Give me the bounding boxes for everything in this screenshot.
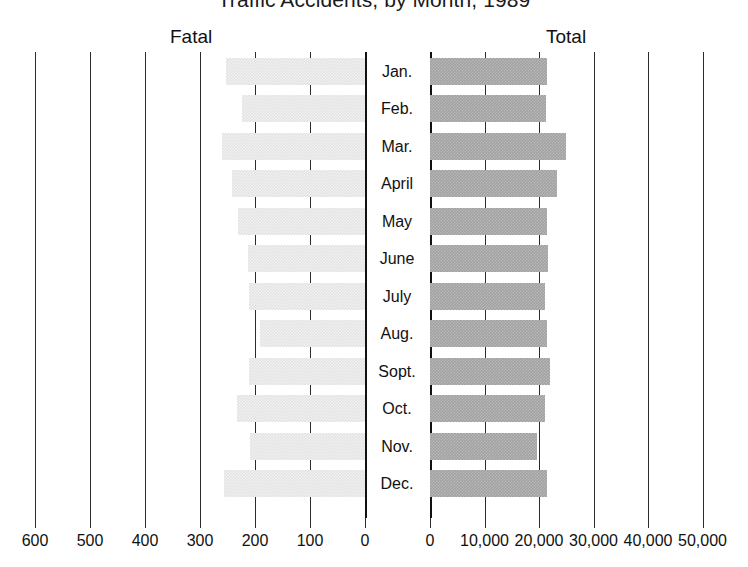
- tick-label-total-10000: 10,000: [460, 532, 509, 550]
- tick-mark-total-10000: [485, 518, 486, 528]
- tick-mark-total-20000: [539, 518, 540, 528]
- traffic-accidents-chart: Traffic Accidents, by Month, 1989 Fatal …: [0, 0, 748, 567]
- tick-mark-fatal-100: [310, 518, 311, 528]
- tick-label-total-40000: 40,000: [624, 532, 673, 550]
- tick-label-total-20000: 20,000: [515, 532, 564, 550]
- tick-label-total-30000: 30,000: [569, 532, 618, 550]
- category-label-sopt: Sopt.: [366, 358, 428, 385]
- category-label-nov: Nov.: [366, 433, 428, 460]
- tick-label-fatal-500: 500: [77, 532, 104, 550]
- tick-label-total-0: 0: [426, 532, 435, 550]
- gridline-fatal-400: [145, 52, 146, 518]
- panel-header-total: Total: [546, 26, 586, 48]
- category-label-mar: Mar.: [366, 133, 428, 160]
- tick-mark-fatal-600: [35, 518, 36, 528]
- page-title: Traffic Accidents, by Month, 1989: [0, 0, 748, 12]
- category-label-oct: Oct.: [366, 395, 428, 422]
- gridline-total-40000: [648, 52, 649, 518]
- gridline-fatal-300: [200, 52, 201, 518]
- category-label-april: April: [366, 170, 428, 197]
- tick-mark-fatal-200: [255, 518, 256, 528]
- tick-mark-total-0: [430, 518, 431, 528]
- category-label-aug: Aug.: [366, 320, 428, 347]
- plot-area-fatal: [35, 52, 365, 518]
- tick-mark-fatal-300: [200, 518, 201, 528]
- tick-mark-fatal-500: [90, 518, 91, 528]
- tick-mark-fatal-0: [365, 518, 366, 528]
- tick-label-fatal-300: 300: [187, 532, 214, 550]
- category-label-may: May: [366, 208, 428, 235]
- tick-label-fatal-100: 100: [297, 532, 324, 550]
- tick-label-fatal-600: 600: [22, 532, 49, 550]
- tick-mark-total-30000: [594, 518, 595, 528]
- panel-header-fatal: Fatal: [170, 26, 212, 48]
- category-label-july: July: [366, 283, 428, 310]
- tick-label-total-50000: 50,000: [678, 532, 727, 550]
- tick-mark-total-50000: [703, 518, 704, 528]
- gridline-fatal-500: [90, 52, 91, 518]
- tick-label-fatal-400: 400: [132, 532, 159, 550]
- category-label-dec: Dec.: [366, 470, 428, 497]
- tick-mark-total-40000: [648, 518, 649, 528]
- gridline-total-30000: [594, 52, 595, 518]
- category-label-jan: Jan.: [366, 58, 428, 85]
- tick-label-fatal-200: 200: [242, 532, 269, 550]
- category-axis-labels: Jan.Feb.Mar.AprilMayJuneJulyAug.Sopt.Oct…: [366, 52, 428, 518]
- gridline-fatal-200: [255, 52, 256, 518]
- gridline-total-10000: [485, 52, 486, 518]
- category-label-june: June: [366, 245, 428, 272]
- category-label-feb: Feb.: [366, 95, 428, 122]
- gridline-fatal-600: [35, 52, 36, 518]
- gridline-total-50000: [703, 52, 704, 518]
- gridline-total-20000: [539, 52, 540, 518]
- gridline-fatal-100: [310, 52, 311, 518]
- tick-mark-fatal-400: [145, 518, 146, 528]
- axis-line-total-zero: [430, 52, 432, 518]
- tick-label-fatal-0: 0: [361, 532, 370, 550]
- plot-area-total: [430, 52, 707, 518]
